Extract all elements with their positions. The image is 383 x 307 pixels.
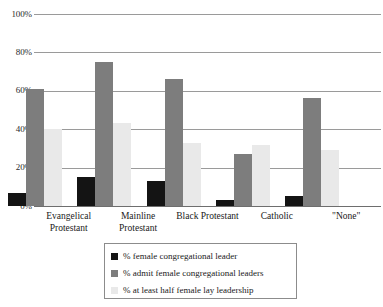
x-axis-tick-label-line: Protestant xyxy=(34,223,103,235)
bar-group xyxy=(216,14,270,206)
bar xyxy=(252,145,270,206)
bar xyxy=(44,129,62,206)
bar-group xyxy=(77,14,131,206)
x-axis-category-labels: EvangelicalProtestantMainlineProtestantB… xyxy=(34,209,381,243)
bar xyxy=(95,62,113,206)
x-axis-tick-label: Black Protestant xyxy=(173,211,242,223)
legend-swatch-icon xyxy=(111,253,118,260)
bar xyxy=(303,98,321,206)
x-axis-tick-label-line: "None" xyxy=(312,211,381,223)
x-axis-tick-label-line: Protestant xyxy=(103,223,172,235)
bar xyxy=(8,193,26,206)
x-axis-tick-label: Catholic xyxy=(242,211,311,223)
bar xyxy=(77,177,95,206)
bar-group xyxy=(285,14,339,206)
legend-swatch-icon xyxy=(111,270,118,277)
legend-label: % at least half female lay leadership xyxy=(123,285,253,295)
bar xyxy=(321,150,339,206)
legend-item: % at least half female lay leadership xyxy=(111,282,296,298)
x-axis-tick-label: EvangelicalProtestant xyxy=(34,211,103,234)
chart-legend: % female congregational leader% admit fe… xyxy=(104,243,297,299)
bar xyxy=(183,143,201,206)
legend-label: % female congregational leader xyxy=(123,251,237,261)
bar xyxy=(147,181,165,206)
bar-group xyxy=(147,14,201,206)
x-axis-tick-label-line: Evangelical xyxy=(34,211,103,223)
bar-group xyxy=(8,14,62,206)
x-axis-tick-label-line: Black Protestant xyxy=(173,211,242,223)
bar xyxy=(285,196,303,206)
legend-item: % female congregational leader xyxy=(111,248,296,264)
x-axis-tick-label: MainlineProtestant xyxy=(103,211,172,234)
legend-label: % admit female congregational leaders xyxy=(123,268,263,278)
legend-swatch-icon xyxy=(111,287,118,294)
x-axis-tick-label: "None" xyxy=(312,211,381,223)
bar xyxy=(26,89,44,206)
bars-layer xyxy=(0,0,383,215)
bar xyxy=(113,123,131,206)
bar-chart: 0%20%40%60%80%100% EvangelicalProtestant… xyxy=(0,0,383,307)
legend-item: % admit female congregational leaders xyxy=(111,265,296,281)
bar xyxy=(216,200,234,206)
x-axis-tick-label-line: Mainline xyxy=(103,211,172,223)
plot-area: 0%20%40%60%80%100% xyxy=(0,0,383,215)
x-axis-tick-label-line: Catholic xyxy=(242,211,311,223)
bar xyxy=(165,79,183,206)
bar xyxy=(234,154,252,206)
